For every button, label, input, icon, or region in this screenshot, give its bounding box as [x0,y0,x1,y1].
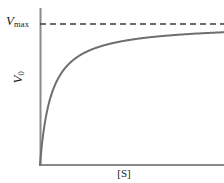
plot-area [0,0,224,183]
michaelis-menten-curve [40,32,224,165]
y-axis-subscript: 0 [16,71,26,75]
vmax-subscript: max [14,19,29,29]
michaelis-menten-figure: Vmax V0 [S] [0,0,224,183]
vmax-symbol: V [6,13,14,28]
vmax-label: Vmax [6,14,29,28]
x-axis-label: [S] [94,168,154,179]
y-axis-symbol: V [10,75,25,83]
y-axis-label: V0 [11,56,26,98]
